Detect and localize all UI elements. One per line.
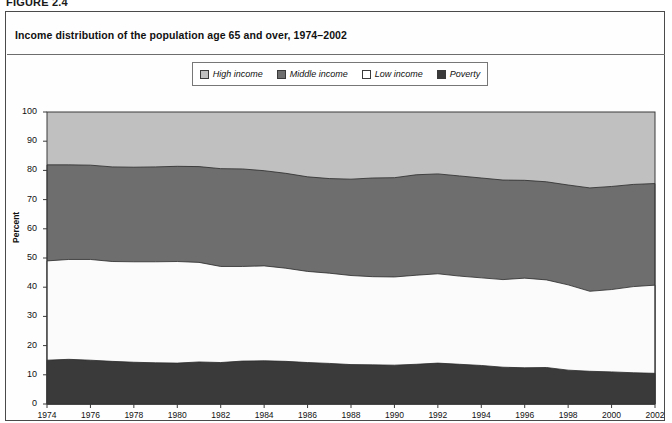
legend-item-low-income[interactable]: Low income [362, 69, 423, 79]
legend-label-high-income: High income [213, 69, 263, 79]
legend-swatch-middle-income [277, 70, 286, 79]
figure-label: FIGURE 2.4 [6, 0, 68, 8]
panel-title: Income distribution of the population ag… [15, 29, 347, 41]
legend-swatch-poverty [437, 70, 446, 79]
legend-swatch-high-income [200, 70, 209, 79]
legend-item-high-income[interactable]: High income [200, 69, 263, 79]
legend-label-low-income: Low income [375, 69, 423, 79]
legend-label-poverty: Poverty [450, 69, 481, 79]
title-divider [7, 54, 665, 55]
legend-item-poverty[interactable]: Poverty [437, 69, 481, 79]
legend-item-middle-income[interactable]: Middle income [277, 69, 348, 79]
legend-swatch-low-income [362, 70, 371, 79]
legend-label-middle-income: Middle income [290, 69, 348, 79]
chart-legend: High income Middle income Low income Pov… [192, 62, 488, 86]
